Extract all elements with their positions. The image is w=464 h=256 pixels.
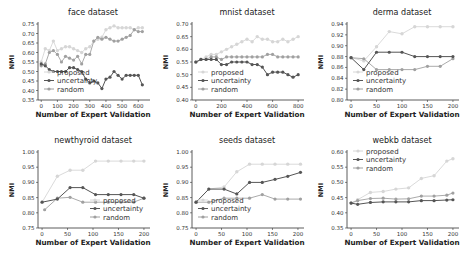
- x-tick-label: 800: [293, 103, 304, 109]
- y-tick-label: 1.00: [176, 149, 189, 155]
- x-tick-label: 150: [113, 231, 124, 237]
- legend-label: random: [211, 86, 238, 94]
- x-tick-label: 0: [39, 103, 43, 109]
- y-tick-label: 0.80: [22, 210, 35, 216]
- y-tick-label: 0.45: [176, 84, 189, 90]
- legend-item-proposed: proposed: [90, 197, 136, 205]
- y-tick-label: 0.50: [331, 179, 344, 185]
- x-tick-label: 300: [85, 103, 96, 109]
- x-tick-label: 200: [293, 231, 304, 237]
- x-tick-label: 0: [194, 231, 198, 237]
- y-tick-label: 0.65: [22, 40, 35, 46]
- x-tick-label: 150: [422, 103, 433, 109]
- chart-panel-newthyroid-dataset: newthyroid dataset0.750.800.850.900.951.…: [0, 128, 155, 256]
- legend-item-uncertainty: uncertainty: [90, 205, 143, 213]
- x-tick-label: 400: [101, 103, 112, 109]
- y-tick-label: 0.50: [176, 72, 189, 78]
- chart-panel-webkb-dataset: webkb dataset0.350.400.450.500.550.60050…: [309, 128, 464, 256]
- chart-title: mnist dataset: [219, 8, 274, 17]
- y-tick-label: 0.85: [22, 195, 35, 201]
- legend-label: uncertainty: [211, 205, 251, 213]
- y-tick-label: 0.55: [22, 59, 35, 65]
- x-tick-label: 100: [52, 103, 63, 109]
- y-tick-label: 0.75: [176, 225, 189, 231]
- series-random: [40, 28, 144, 67]
- x-tick-label: 100: [397, 231, 408, 237]
- legend-label: random: [366, 165, 393, 173]
- legend-item-proposed: proposed: [353, 148, 399, 156]
- x-tick-label: 0: [40, 231, 44, 237]
- chart-title: webkb dataset: [372, 136, 431, 145]
- y-tick-label: 0.35: [331, 225, 344, 231]
- legend-label: random: [103, 214, 130, 222]
- y-tick-label: 0.60: [331, 149, 344, 155]
- x-tick-label: 150: [422, 231, 433, 237]
- legend-item-random: random: [198, 86, 238, 94]
- x-tick-label: 150: [267, 231, 278, 237]
- x-tick-label: 0: [349, 231, 353, 237]
- series-random: [349, 191, 454, 204]
- figure-grid: face dataset0.350.400.450.500.550.600.65…: [0, 0, 464, 256]
- legend-item-uncertainty: uncertainty: [198, 205, 251, 213]
- legend-label: random: [366, 86, 393, 94]
- y-tick-label: 0.90: [331, 43, 344, 49]
- legend-label: uncertainty: [366, 156, 406, 164]
- y-tick-label: 0.84: [331, 75, 344, 81]
- legend-item-uncertainty: uncertainty: [353, 77, 406, 85]
- y-tick-label: 0.70: [22, 31, 35, 37]
- y-tick-label: 0.55: [176, 59, 189, 65]
- y-axis-label: NMI: [317, 55, 325, 69]
- legend-label: proposed: [211, 197, 244, 205]
- legend: proposeduncertaintyrandom: [90, 197, 143, 222]
- x-tick-label: 100: [88, 231, 99, 237]
- y-tick-label: 0.75: [22, 225, 35, 231]
- y-tick-label: 0.94: [331, 21, 344, 27]
- chart-title: face dataset: [68, 8, 118, 17]
- legend-label: uncertainty: [366, 77, 406, 85]
- y-tick-label: 0.90: [22, 179, 35, 185]
- legend-label: proposed: [366, 148, 399, 156]
- y-tick-label: 0.90: [176, 179, 189, 185]
- chart-panel-mnist-dataset: mnist dataset0.400.450.500.550.600.650.7…: [154, 0, 309, 128]
- y-tick-label: 0.75: [22, 21, 35, 27]
- y-tick-label: 0.82: [331, 86, 343, 92]
- x-tick-label: 200: [448, 231, 459, 237]
- y-tick-label: 0.65: [176, 34, 189, 40]
- chart-panel-seeds-dataset: seeds dataset0.750.800.850.900.951.00050…: [154, 128, 309, 256]
- x-tick-label: 200: [448, 103, 459, 109]
- chart-title: newthyroid dataset: [54, 136, 132, 145]
- legend-item-uncertainty: uncertainty: [198, 77, 251, 85]
- x-tick-label: 400: [242, 103, 253, 109]
- y-tick-label: 0.40: [176, 97, 189, 103]
- y-tick-label: 0.60: [22, 50, 35, 56]
- series-proposed: [40, 24, 145, 64]
- y-axis-label: NMI: [317, 183, 325, 197]
- x-tick-label: 50: [218, 231, 225, 237]
- legend-label: random: [57, 86, 84, 94]
- legend-item-random: random: [198, 214, 238, 222]
- chart-title: derma dataset: [373, 8, 432, 17]
- legend: proposeduncertaintyrandom: [353, 148, 406, 173]
- x-tick-label: 200: [68, 103, 79, 109]
- y-tick-label: 0.95: [176, 164, 189, 170]
- y-tick-label: 0.80: [331, 97, 344, 103]
- y-tick-label: 0.80: [176, 210, 189, 216]
- x-tick-label: 200: [216, 103, 227, 109]
- y-tick-label: 1.00: [22, 149, 35, 155]
- y-tick-label: 0.45: [331, 195, 344, 201]
- x-tick-label: 200: [139, 231, 150, 237]
- legend-label: proposed: [57, 69, 90, 77]
- y-axis-label: NMI: [162, 55, 170, 69]
- legend-label: uncertainty: [57, 77, 97, 85]
- legend: proposeduncertaintyrandom: [353, 69, 406, 94]
- x-tick-label: 100: [397, 103, 408, 109]
- y-tick-label: 0.88: [331, 54, 344, 60]
- legend-item-uncertainty: uncertainty: [44, 77, 97, 85]
- legend: proposeduncertaintyrandom: [198, 69, 251, 94]
- x-axis-label: Number of Expert Validation: [35, 238, 150, 247]
- y-tick-label: 0.35: [22, 97, 35, 103]
- x-tick-label: 600: [133, 103, 144, 109]
- y-tick-label: 0.40: [22, 88, 35, 94]
- legend-item-random: random: [90, 214, 130, 222]
- x-axis-label: Number of Expert Validation: [344, 110, 459, 119]
